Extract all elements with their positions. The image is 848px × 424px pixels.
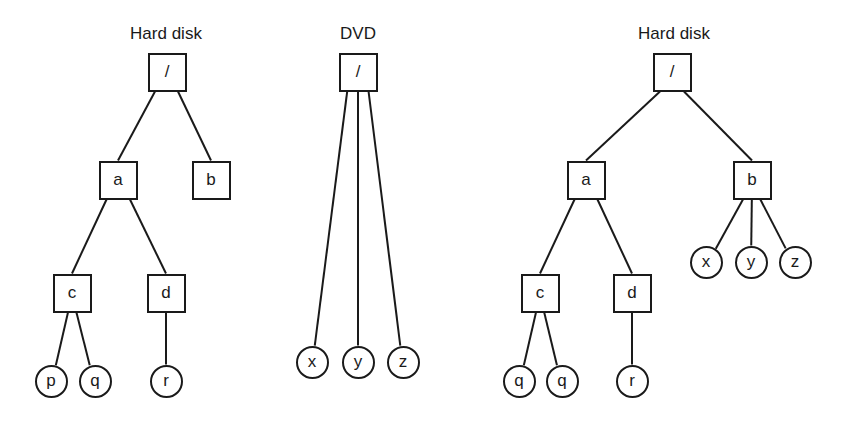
node-label: y <box>354 352 363 372</box>
tree-edge <box>684 92 752 161</box>
node-label: z <box>791 252 800 272</box>
tree-edge <box>130 200 166 274</box>
node-label: q <box>514 371 523 391</box>
tree-edge <box>315 92 347 346</box>
tree-edge <box>586 92 660 161</box>
node-label: x <box>308 352 317 372</box>
node-label: b <box>206 170 215 190</box>
node-label: d <box>627 283 636 303</box>
directory-node: / <box>148 53 187 92</box>
node-label: a <box>113 170 122 190</box>
tree-edge <box>118 92 155 161</box>
directory-node: / <box>339 53 378 92</box>
file-node: r <box>150 365 183 398</box>
node-label: r <box>629 371 635 391</box>
node-label: p <box>46 371 55 391</box>
directory-node: c <box>521 274 560 313</box>
file-node: y <box>735 246 768 279</box>
node-label: x <box>702 252 711 272</box>
directory-node: d <box>613 274 652 313</box>
tree-edge <box>544 313 557 366</box>
node-label: b <box>747 170 756 190</box>
tree-edge <box>716 200 743 249</box>
node-label: / <box>356 62 361 82</box>
node-label: / <box>670 62 675 82</box>
tree-edge <box>76 313 89 366</box>
tree-edge <box>524 313 536 366</box>
tree-edges <box>0 0 848 424</box>
node-label: / <box>165 62 170 82</box>
tree-edge <box>369 92 401 346</box>
file-node: y <box>342 346 375 379</box>
directory-node: c <box>53 274 92 313</box>
tree-edge <box>72 200 107 274</box>
node-label: r <box>163 371 169 391</box>
node-label: d <box>161 283 170 303</box>
file-node: q <box>546 365 579 398</box>
file-node: x <box>690 246 723 279</box>
tree-edge <box>751 200 752 246</box>
node-label: q <box>557 371 566 391</box>
node-label: z <box>399 352 408 372</box>
directory-node: / <box>653 53 692 92</box>
tree-edge <box>540 200 575 274</box>
tree-title: DVD <box>340 24 376 44</box>
directory-node: b <box>733 161 772 200</box>
file-node: q <box>503 365 536 398</box>
directory-node: b <box>192 161 231 200</box>
tree-title: Hard disk <box>130 24 202 44</box>
file-node: x <box>296 346 329 379</box>
node-label: q <box>90 371 99 391</box>
file-node: r <box>616 365 649 398</box>
tree-edge <box>598 200 633 274</box>
node-label: y <box>747 252 756 272</box>
node-label: c <box>536 283 545 303</box>
directory-node: a <box>567 161 606 200</box>
node-label: a <box>581 170 590 190</box>
file-node: z <box>779 246 812 279</box>
directory-node: a <box>99 161 138 200</box>
tree-title: Hard disk <box>638 24 710 44</box>
directory-node: d <box>147 274 186 313</box>
node-label: c <box>68 283 77 303</box>
tree-edge <box>760 200 785 249</box>
file-node: z <box>387 346 420 379</box>
file-node: q <box>79 365 112 398</box>
tree-edge <box>56 313 68 366</box>
tree-edge <box>178 92 211 161</box>
file-node: p <box>35 365 68 398</box>
